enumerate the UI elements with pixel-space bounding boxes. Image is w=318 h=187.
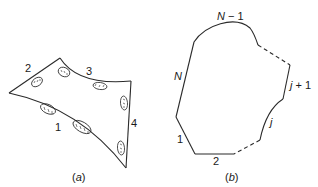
- panel-a-label-1: 1: [55, 121, 61, 133]
- ellipse-icon: [117, 141, 125, 156]
- panel-b-label-n-minus-1: N − 1: [217, 10, 244, 22]
- panel-a-edge-1: [9, 93, 126, 168]
- panel-a-edge-3: [60, 58, 131, 82]
- panel-a-caption: (a): [72, 171, 85, 183]
- panel-b-edge-j-plus-1: [283, 65, 290, 99]
- panel-b-edge-dashed-top: [258, 45, 290, 65]
- panel-a: [9, 58, 131, 168]
- panel-b-label-n: N: [174, 70, 182, 82]
- panel-b-edge-n-minus-1: [194, 22, 258, 45]
- panel-b-caption: (b): [225, 171, 238, 183]
- panel-a-edge-2: [9, 58, 60, 93]
- panel-b-label-1: 1: [177, 133, 183, 145]
- panel-b-label-j: j: [268, 116, 273, 128]
- panel-b-edge-dashed-bottom: [234, 140, 260, 154]
- panel-a-label-2: 2: [25, 62, 31, 74]
- panel-a-label-4: 4: [131, 117, 137, 129]
- panel-b-label-2: 2: [213, 155, 219, 167]
- ellipse-icon: [57, 65, 72, 78]
- panel-a-labels: 2 3 1 4 (a): [25, 62, 137, 183]
- ellipse-icon: [71, 118, 93, 137]
- panel-a-ellipses: [30, 65, 128, 155]
- panel-a-label-3: 3: [86, 65, 92, 77]
- arrow-marks-icon: [34, 70, 125, 152]
- panel-b-label-j-plus-1: j + 1: [288, 79, 311, 91]
- panel-b: [176, 22, 290, 154]
- diagram-canvas: 2 3 1 4 (a) N − 1 N j + 1 j 1 2 (b): [0, 0, 318, 187]
- ellipse-icon: [93, 82, 108, 91]
- ellipse-icon: [120, 96, 128, 111]
- panel-b-labels: N − 1 N j + 1 j 1 2 (b): [174, 10, 311, 183]
